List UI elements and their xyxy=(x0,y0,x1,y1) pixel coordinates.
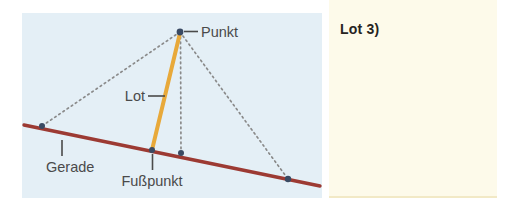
note-panel: Lot 3) xyxy=(329,0,497,198)
point-fusspunkt-dot xyxy=(149,147,155,153)
point-left-dot xyxy=(39,123,45,129)
point-below-punkt-dot xyxy=(178,150,184,156)
point-right-dot xyxy=(285,176,291,182)
label-fusspunkt: Fußpunkt xyxy=(121,173,182,189)
point-punkt-dot xyxy=(177,29,184,36)
note-title: Lot 3) xyxy=(340,21,379,37)
dotted-line-punkt-vertical xyxy=(181,32,182,153)
dotted-line-punkt-to-right-dot xyxy=(180,32,288,179)
lot-perpendicular-line xyxy=(152,33,180,150)
label-lot: Lot xyxy=(125,88,145,104)
dotted-construction-lines xyxy=(42,32,288,179)
geometry-figure-panel: Punkt Lot Gerade Fußpunkt xyxy=(22,13,322,198)
figure-page: Punkt Lot Gerade Fußpunkt Lot 3) xyxy=(0,0,510,212)
label-punkt: Punkt xyxy=(201,24,238,40)
label-gerade: Gerade xyxy=(46,159,94,175)
